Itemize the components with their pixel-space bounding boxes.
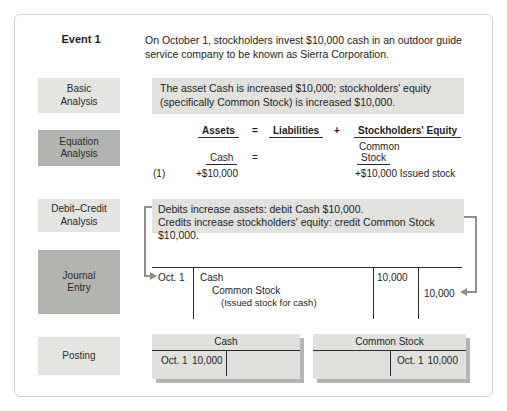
right-arrow-bottom-segment	[467, 291, 477, 293]
right-arrow-vertical-segment	[475, 216, 477, 293]
journal-top-rule	[152, 267, 462, 268]
equation-sub-equals: =	[252, 152, 258, 163]
journal-memo: (Issued stock for cash)	[221, 297, 317, 308]
left-arrow-vertical-segment	[144, 206, 146, 277]
equation-header-equity: Stockholders' Equity	[354, 125, 461, 138]
equation-row-ref: (1)	[153, 168, 165, 179]
event-description: On October 1, stockholders invest $10,00…	[145, 33, 481, 61]
equation-analysis-label: Equation Analysis	[38, 130, 120, 166]
debit-credit-analysis-label: Debit–Credit Analysis	[38, 199, 120, 232]
basic-analysis-label: Basic Analysis	[38, 78, 120, 113]
debit-rule-line: Debits increase assets: debit Cash $10,0…	[158, 203, 458, 216]
event-label: Event 1	[38, 33, 124, 45]
journal-entry-label: Journal Entry	[38, 250, 120, 314]
t-account-cash-amount: 10,000	[192, 355, 220, 366]
t-account-common-stock-date: Oct. 1	[397, 355, 424, 366]
t-account-cash-stem	[226, 350, 227, 376]
journal-debit-divider	[373, 267, 374, 319]
debit-credit-analysis-text: Debits increase assets: debit Cash $10,0…	[152, 199, 464, 233]
equation-row-assets-value: +$10,000	[196, 168, 238, 179]
t-account-common-stock-amount: 10,000	[427, 355, 458, 366]
right-arrowhead-icon	[460, 288, 467, 296]
t-account-cash: Cash Oct. 1 10,000	[152, 334, 300, 379]
journal-date: Oct. 1	[158, 272, 185, 283]
equation-header-plus: +	[334, 125, 340, 136]
t-account-common-stock-stem	[390, 350, 391, 376]
equation-sub-cash: Cash	[206, 152, 237, 165]
equation-header-liabilities: Liabilities	[269, 125, 323, 138]
equation-sub-common: Common	[359, 141, 400, 152]
t-account-cash-title: Cash	[152, 334, 300, 349]
left-arrowhead-icon	[150, 272, 157, 280]
credit-rule-line: Credits increase stockholders' equity: c…	[158, 216, 458, 242]
journal-credit-divider	[418, 267, 419, 319]
equation-header-equals: =	[252, 125, 258, 136]
equation-row-equity-value: +$10,000 Issued stock	[355, 168, 455, 179]
equation-sub-stock: Stock	[357, 152, 390, 165]
t-account-common-stock: Common Stock Oct. 1 10,000	[313, 334, 466, 379]
figure-canvas: Event 1 On October 1, stockholders inves…	[0, 0, 507, 411]
journal-credit-account: Common Stock	[212, 285, 280, 296]
t-account-cash-date: Oct. 1	[161, 355, 188, 366]
t-account-common-stock-title: Common Stock	[313, 334, 466, 349]
journal-debit-account: Cash	[200, 272, 223, 283]
journal-debit-amount: 10,000	[377, 272, 413, 283]
posting-label: Posting	[38, 337, 120, 375]
journal-date-divider	[193, 267, 194, 319]
equation-header-assets: Assets	[198, 125, 239, 138]
journal-credit-amount: 10,000	[424, 288, 455, 299]
basic-analysis-text: The asset Cash is increased $10,000; sto…	[152, 78, 464, 114]
